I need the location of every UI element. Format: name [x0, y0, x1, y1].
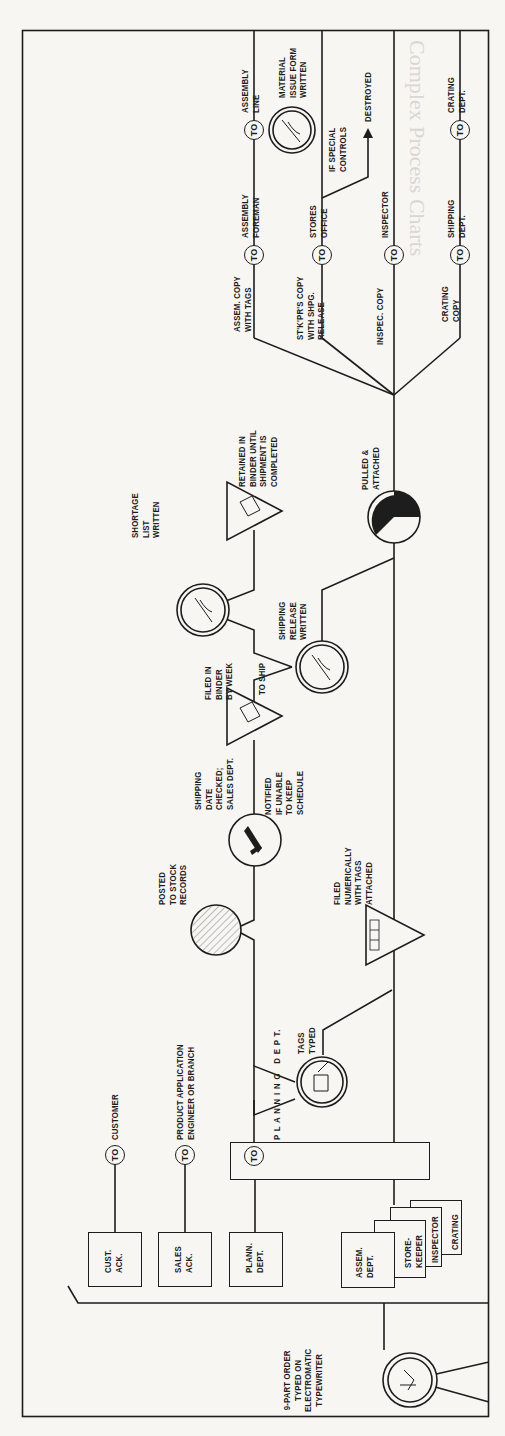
to-product-application-label: PRODUCT APPLICATION ENGINEER OR BRANCH: [175, 1044, 196, 1140]
material-issue-label: MATERIAL ISSUE FORM WRITTEN: [277, 48, 309, 98]
start-label: 9-PART ORDER TYPED ON ELECTROMATIC TYPEW…: [282, 1349, 324, 1412]
to-circle-product-app: TO: [175, 1145, 195, 1165]
to-circle-stores-office: TO: [312, 245, 332, 265]
shipping-release-label: SHIPPING RELEASE WRITTEN: [277, 601, 309, 640]
to-circle-assembly-line: TO: [244, 120, 264, 140]
assembly-line-label: ASSEMBLY LINE: [240, 69, 261, 113]
stacked-copy-storekeeper-label: STORE- KEEPER: [403, 1235, 424, 1268]
to-ship-label: TO SHIP: [257, 663, 268, 695]
retained-label: RETAINED IN BINDER UNTIL SHIPMENT IS COM…: [237, 430, 279, 487]
to-circle-inspector: TO: [384, 245, 404, 265]
shipping-dept-label: SHIPPING DEPT.: [446, 199, 467, 238]
inspector-label: INSPECTOR: [380, 191, 391, 238]
copy-box-plann-dept: PLANN. DEPT.: [229, 1232, 283, 1287]
filed-numerically-label: FILED NUMERICALLY WITH TAGS ATTACHED: [332, 847, 374, 905]
inspec-copy-label: INSPEC. COPY: [375, 288, 386, 345]
to-circle-planning: TO: [244, 1146, 264, 1166]
notified-label: NOTIFIED IF UNABLE TO KEEP SCHEDULE: [263, 771, 305, 815]
special-controls-label: IF SPECIAL CONTROLS: [327, 127, 348, 172]
stacked-copy-assem-dept-label: ASSEM. DEPT.: [354, 1247, 375, 1278]
pulled-attached-label: PULLED & ATTACHED: [360, 447, 381, 490]
crating-copy-label: CRATING COPY: [440, 286, 461, 322]
posted-to-stock-label: POSTED TO STOCK RECORDS: [157, 864, 189, 905]
to-customer-label: CUSTOMER: [110, 1094, 121, 1140]
assembly-foreman-label: ASSEMBLY FOREMAN: [240, 194, 261, 238]
stkpr-copy-label: ST'K'PR'S COPY WITH SHPG. RELEASE: [295, 276, 327, 340]
to-circle-shipping-dept: TO: [450, 245, 470, 265]
stores-office-label: STORES OFFICE: [308, 205, 329, 238]
destroyed-label: DESTROYED: [363, 72, 374, 122]
to-circle-crating-dept: TO: [450, 120, 470, 140]
planning-dept-label: P L A N N I N G D E P T.: [272, 1029, 283, 1140]
stacked-copy-crating-label: CRATING: [450, 1214, 461, 1250]
filed-in-binder-label: FILED IN BINDER BY WEEK: [203, 663, 235, 700]
to-circle-customer: TO: [105, 1145, 125, 1165]
stacked-copy-inspector-label: INSPECTOR: [430, 1216, 441, 1263]
shortage-list-label: SHORTAGE LIST WRITTEN: [130, 493, 162, 538]
copy-box-sales-ack: SALES ACK.: [158, 1232, 212, 1287]
assem-copy-label: ASSEM. COPY WITH TAGS: [232, 276, 253, 332]
copy-box-cust-ack: CUST. ACK.: [88, 1232, 142, 1287]
tags-typed-label: TAGS TYPED: [296, 1027, 317, 1054]
scanned-page: Complex Process Charts: [0, 0, 505, 1436]
crating-dept-label: CRATING DEPT.: [446, 77, 467, 113]
to-circle-assembly-foreman: TO: [244, 245, 264, 265]
shipping-date-label: SHIPPING DATE CHECKED; SALES DEPT.: [193, 758, 235, 810]
